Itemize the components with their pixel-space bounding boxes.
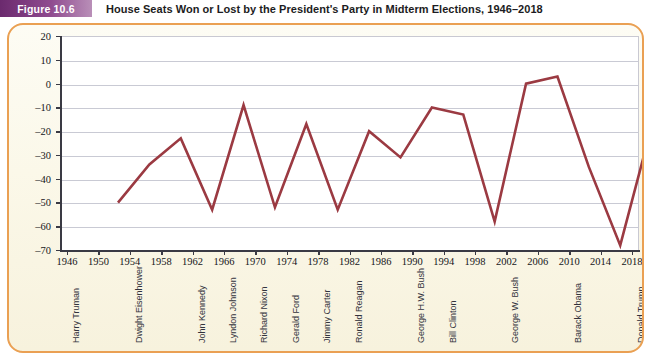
president-label: George W. Bush [510,277,520,343]
x-tick-label: 2002 [496,256,517,267]
x-tick-mark [506,251,507,255]
y-tick-label: –40 [7,173,51,184]
x-tick-mark [381,251,382,255]
y-tick-mark [56,202,60,203]
president-label: George H.W. Bush [416,268,426,343]
gridline [60,61,638,62]
figure-title: House Seats Won or Lost by the President… [106,3,543,15]
president-label: Richard Nixon [259,286,269,343]
president-label: Jimmy Carter [322,290,332,344]
chart-card: 20100–10–20–30–40–50–60–70 House seat ch… [7,23,644,353]
y-tick-mark [56,36,60,37]
x-tick-mark [601,251,602,255]
gridline [60,227,638,228]
y-tick-label: 10 [7,54,51,65]
y-tick-label: –50 [7,197,51,208]
gridline [60,180,638,181]
x-tick-label: 1990 [402,256,423,267]
x-tick-mark [538,251,539,255]
x-tick-mark [569,251,570,255]
y-tick-mark [56,250,60,251]
x-tick-label: 2018 [622,256,643,267]
x-tick-label: 1998 [465,256,486,267]
figure-number-badge: Figure 10.6 [0,0,92,17]
x-tick-mark [318,251,319,255]
x-tick-label: 1978 [308,256,329,267]
x-tick-mark [287,251,288,255]
president-label: Lyndon Johnson [228,277,238,343]
x-tick-mark [444,251,445,255]
y-tick-mark [56,226,60,227]
y-tick-mark [56,155,60,156]
x-tick-label: 1986 [370,256,391,267]
president-label: Dwight Eisenhower [134,266,144,343]
x-tick-mark [193,251,194,255]
x-tick-mark [475,251,476,255]
y-tick-label: –60 [7,221,51,232]
y-tick-label: –70 [7,245,51,256]
x-tick-label: 2014 [590,256,611,267]
x-tick-label: 2010 [559,256,580,267]
x-tick-mark [632,251,633,255]
x-tick-mark [130,251,131,255]
president-label: Gerald Ford [291,295,301,343]
y-tick-label: –20 [7,126,51,137]
y-tick-mark [56,60,60,61]
x-tick-label: 1994 [433,256,454,267]
y-tick-label: –30 [7,149,51,160]
gridline [60,108,638,109]
gridline [60,156,638,157]
x-tick-label: 1982 [339,256,360,267]
president-label: Donald Trump [636,286,644,343]
y-tick-mark [56,107,60,108]
x-tick-label: 1946 [57,256,78,267]
president-label: John Kennedy [197,285,207,343]
x-tick-mark [98,251,99,255]
plot-area [60,36,639,250]
x-tick-label: 2006 [527,256,548,267]
president-label: Harry Truman [71,288,81,343]
president-label: Barack Obama [573,283,583,343]
x-tick-mark [255,251,256,255]
y-tick-label: –10 [7,102,51,113]
gridline [60,85,638,86]
x-tick-mark [161,251,162,255]
y-tick-label: 0 [7,78,51,89]
president-label: Bill Clinton [448,300,458,343]
y-tick-mark [56,84,60,85]
x-tick-mark [67,251,68,255]
president-label: Ronald Reagan [354,280,364,343]
x-tick-label: 1950 [88,256,109,267]
x-tick-label: 1966 [213,256,234,267]
figure-header: Figure 10.6 House Seats Won or Lost by t… [0,0,653,17]
x-tick-mark [350,251,351,255]
x-tick-label: 1958 [151,256,172,267]
y-tick-mark [56,179,60,180]
gridline [60,203,638,204]
y-axis-line [60,36,62,251]
gridline [60,132,638,133]
x-tick-label: 1970 [245,256,266,267]
x-tick-label: 1974 [276,256,297,267]
x-tick-mark [412,251,413,255]
x-tick-label: 1962 [182,256,203,267]
y-tick-label: 20 [7,31,51,42]
y-tick-mark [56,131,60,132]
x-tick-mark [224,251,225,255]
